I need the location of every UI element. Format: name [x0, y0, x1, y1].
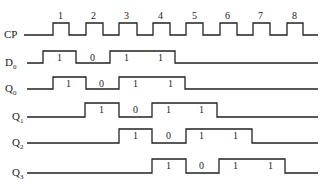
- svg-text:1: 1: [268, 160, 273, 171]
- svg-text:0: 0: [199, 160, 204, 171]
- svg-text:0: 0: [166, 130, 171, 141]
- q3-label: Q3: [12, 166, 24, 181]
- pulse-label: 3: [124, 10, 129, 21]
- pulse-label: 2: [91, 10, 96, 21]
- svg-text:1: 1: [124, 52, 129, 63]
- cp-label: CP: [4, 28, 17, 40]
- svg-text:1: 1: [233, 160, 238, 171]
- svg-text:1: 1: [133, 78, 138, 89]
- pulse-label: 8: [292, 10, 297, 21]
- q0-label: Q0: [5, 82, 17, 97]
- svg-text:0: 0: [133, 104, 138, 115]
- q0-signal: Q0 1 0 1 1: [5, 77, 318, 97]
- q2-signal: Q2 1 0 1 1: [12, 129, 318, 151]
- svg-text:1: 1: [133, 130, 138, 141]
- q2-label: Q2: [12, 136, 24, 151]
- pulse-label: 7: [258, 10, 263, 21]
- pulse-label: 4: [158, 10, 163, 21]
- svg-text:0: 0: [99, 78, 104, 89]
- pulse-label: 5: [192, 10, 197, 21]
- svg-text:1: 1: [199, 130, 204, 141]
- svg-text:1: 1: [199, 104, 204, 115]
- d0-label: D0: [5, 56, 17, 71]
- svg-text:1: 1: [158, 52, 163, 63]
- q1-label: Q1: [12, 110, 24, 125]
- timing-diagram: CP 1 2 3 4 5 6 7 8 D0 1 0 1 1 Q0 1 0 1 1…: [0, 0, 329, 190]
- svg-text:1: 1: [66, 78, 71, 89]
- d0-signal: D0 1 0 1 1: [5, 51, 318, 71]
- q3-signal: Q3 1 0 1 1: [12, 159, 318, 181]
- cp-signal: CP 1 2 3 4 5 6 7 8: [4, 10, 318, 40]
- svg-text:1: 1: [166, 104, 171, 115]
- svg-text:1: 1: [233, 130, 238, 141]
- svg-text:1: 1: [166, 160, 171, 171]
- q1-signal: Q1 1 0 1 1: [12, 103, 318, 125]
- svg-text:1: 1: [57, 52, 62, 63]
- pulse-label: 6: [225, 10, 230, 21]
- svg-text:0: 0: [90, 52, 95, 63]
- svg-text:1: 1: [168, 78, 173, 89]
- pulse-label: 1: [58, 10, 63, 21]
- svg-text:1: 1: [99, 104, 104, 115]
